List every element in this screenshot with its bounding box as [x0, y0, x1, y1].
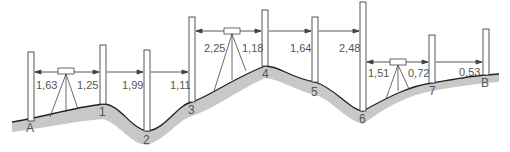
- staff-4: [262, 10, 268, 66]
- staff-5: [312, 17, 318, 82]
- point-label-3: 3: [188, 103, 195, 117]
- reading-3-back: 2,25: [204, 42, 225, 54]
- reading-1-back: 1,99: [122, 79, 143, 91]
- reading-A-back: 1,63: [36, 79, 57, 91]
- point-label-A: A: [26, 121, 34, 135]
- staff-B: [483, 29, 489, 75]
- point-label-6: 6: [359, 112, 366, 126]
- reading-1-fore: 1,25: [77, 79, 98, 91]
- point-label-5: 5: [311, 85, 318, 99]
- point-label-B: B: [481, 76, 489, 90]
- reading-6-fore: 2,48: [339, 42, 360, 54]
- point-label-4: 4: [262, 67, 269, 81]
- point-label-1: 1: [99, 105, 106, 119]
- reading-7: 0,72: [408, 67, 429, 79]
- point-label-7: 7: [429, 84, 436, 98]
- staff-1: [100, 45, 106, 104]
- staff-7: [429, 35, 435, 83]
- reading-5: 1,64: [290, 42, 311, 54]
- staff-A: [28, 52, 34, 121]
- reading-6-back: 1,51: [368, 67, 389, 79]
- point-label-2: 2: [143, 133, 150, 147]
- staff-2: [144, 50, 150, 131]
- reading-2-fore: 1,11: [170, 79, 191, 91]
- reading-4-fore: 1,18: [242, 42, 263, 54]
- staff-6: [360, 2, 366, 111]
- reading-B: 0,53: [459, 66, 480, 78]
- levelling-diagram: 1,63 1,25 1,99 1,11 2,25 1,18 1,64 2,48 …: [0, 0, 510, 152]
